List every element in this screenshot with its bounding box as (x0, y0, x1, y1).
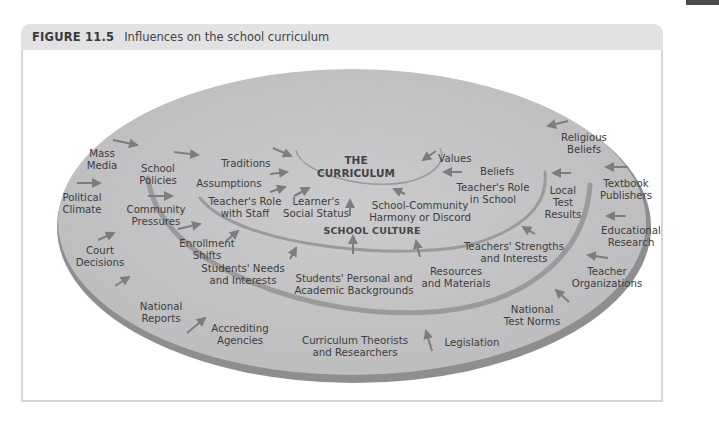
influence-students-backgrounds: Students' Personal and Academic Backgrou… (294, 273, 413, 297)
influence-local-test-results: Local Test Results (545, 185, 582, 221)
influence-enrollment-shifts: Enrollment Shifts (179, 238, 234, 262)
influence-religious-beliefs: Religious Beliefs (561, 132, 607, 156)
influence-accrediting-agencies: Accrediting Agencies (211, 323, 268, 347)
influence-curriculum-theorists: Curriculum Theorists and Researchers (302, 335, 408, 359)
influence-assumptions: Assumptions (196, 178, 261, 190)
influence-school-policies: School Policies (139, 163, 177, 187)
influence-teachers-role-school: Teacher's Role in School (457, 182, 530, 206)
influence-learners-social-status: Learner's Social Status (283, 196, 349, 220)
influence-beliefs: Beliefs (480, 166, 514, 178)
influence-mass-media: Mass Media (87, 148, 118, 172)
influence-textbook-publishers: Textbook Publishers (600, 178, 652, 202)
influence-court-decisions: Court Decisions (76, 245, 125, 269)
influence-students-needs: Students' Needs and Interests (201, 263, 284, 287)
influence-community-pressures: Community Pressures (127, 204, 186, 228)
influence-teachers-strengths: Teachers' Strengths and Interests (464, 241, 564, 265)
school-culture-label: SCHOOL CULTURE (323, 225, 420, 236)
influence-national-reports: National Reports (140, 301, 182, 325)
influences-diagram (0, 0, 719, 430)
influence-traditions: Traditions (221, 158, 270, 170)
influence-educational-research: Educational Research (601, 225, 661, 249)
influence-teachers-role-staff: Teacher's Role with Staff (209, 196, 282, 220)
influence-values: Values (438, 153, 471, 165)
influence-legislation: Legislation (445, 337, 500, 349)
influence-teacher-organizations: Teacher Organizations (572, 266, 642, 290)
influence-resources-materials: Resources and Materials (421, 266, 490, 290)
core-curriculum-label: THE CURRICULUM (317, 154, 395, 180)
influence-political-climate: Political Climate (62, 192, 101, 216)
influence-national-test-norms: National Test Norms (504, 304, 560, 328)
